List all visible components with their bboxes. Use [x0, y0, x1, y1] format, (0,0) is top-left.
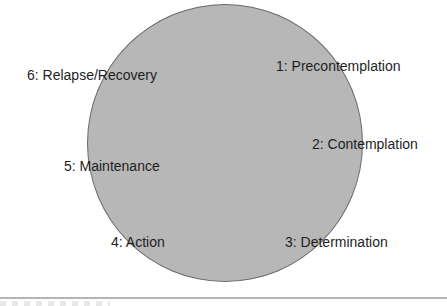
horizontal-divider [0, 297, 447, 299]
stage-label-action: 4: Action [111, 234, 165, 250]
stage-label-maintenance: 5: Maintenance [64, 158, 160, 174]
stage-label-contemplation: 2: Contemplation [312, 136, 418, 152]
stage-label-relapse-recovery: 6: Relapse/Recovery [27, 67, 157, 83]
stage-label-determination: 3: Determination [285, 234, 388, 250]
cropped-caption-text [0, 301, 110, 306]
stage-label-precontemplation: 1: Precontemplation [276, 58, 401, 74]
